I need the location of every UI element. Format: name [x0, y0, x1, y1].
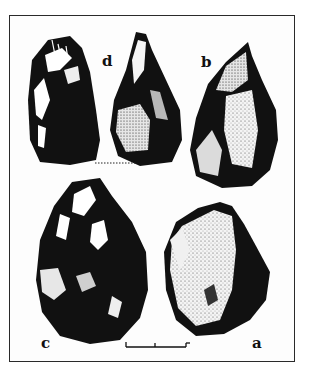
scale-bar — [126, 342, 190, 347]
stone-tools-illustration — [0, 0, 310, 373]
label-a: a — [252, 336, 262, 351]
tool-c — [36, 178, 148, 344]
label-d: d — [102, 54, 113, 69]
label-b: b — [201, 55, 212, 70]
tool-a — [164, 202, 270, 336]
label-c: c — [41, 336, 50, 351]
tool-d-right — [110, 32, 182, 166]
tool-d-left — [28, 36, 100, 165]
